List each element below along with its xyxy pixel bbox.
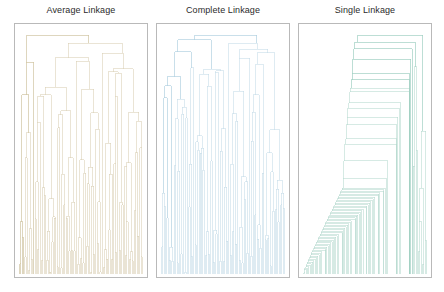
panel-title-average-linkage: Average Linkage — [0, 5, 162, 15]
panel-title-complete-linkage: Complete Linkage — [142, 5, 304, 15]
dendrogram-plot-average-linkage — [15, 24, 147, 277]
dendrogram-panel-average-linkage — [14, 23, 148, 278]
plot-frame-single-linkage — [298, 23, 432, 278]
plot-frame-average-linkage — [14, 23, 148, 278]
dendrogram-plot-single-linkage — [299, 24, 431, 277]
plot-frame-complete-linkage — [156, 23, 290, 278]
panel-title-single-linkage: Single Linkage — [284, 5, 444, 15]
dendrogram-panel-complete-linkage — [156, 23, 290, 278]
dendrogram-panel-single-linkage — [298, 23, 432, 278]
figure-canvas: Average Linkage Complete Linkage Single … — [0, 0, 444, 292]
dendrogram-plot-complete-linkage — [157, 24, 289, 277]
